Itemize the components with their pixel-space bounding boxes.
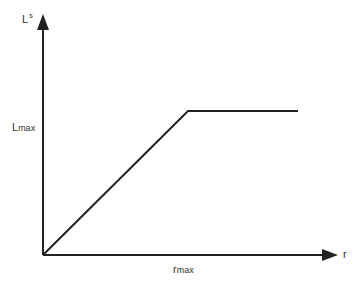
x-axis-arrow-icon [322, 249, 338, 261]
chart-canvas [0, 0, 358, 286]
y-axis-label-main: L [22, 13, 28, 25]
y-axis-arrow-icon [37, 14, 49, 30]
y-axis-label-sup: s [29, 12, 33, 19]
y-axis-label: Ls [22, 13, 33, 25]
x-tick-rmax: rmax [173, 263, 194, 275]
y-tick-lmax: Lmax [12, 121, 35, 133]
y-tick-sub: max [18, 123, 35, 133]
x-axis-label-text: r [343, 248, 347, 260]
series-line [43, 111, 298, 255]
x-axis-label: r [343, 248, 347, 260]
x-tick-sub: max [177, 265, 194, 275]
